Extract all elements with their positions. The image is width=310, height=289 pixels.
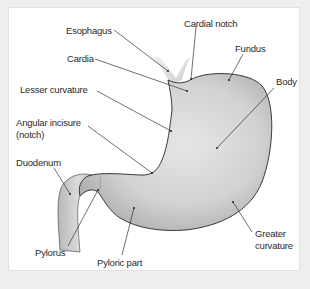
label-esophagus: Esophagus — [66, 25, 112, 37]
leader-esophagus — [114, 30, 168, 71]
label-duodenum: Duodenum — [16, 157, 61, 169]
label-greater-curvature: Greater curvature — [255, 228, 293, 252]
label-cardial-notch: Cardial notch — [184, 18, 237, 30]
leader-angular-incisure — [88, 126, 152, 173]
label-pyloric-part: Pyloric part — [97, 257, 142, 269]
label-pylorus: Pylorus — [35, 247, 65, 259]
esophagus-shape — [152, 56, 190, 84]
label-greater-curvature-line2: curvature — [255, 240, 293, 252]
label-cardia: Cardia — [67, 53, 94, 65]
label-angular-incisure-line1: Angular incisure — [16, 117, 81, 129]
label-angular-incisure-line2: (notch) — [16, 129, 81, 141]
label-body: Body — [276, 76, 297, 88]
leader-cardial-notch — [191, 27, 196, 79]
label-angular-incisure: Angular incisure (notch) — [16, 117, 81, 141]
leader-lesser-curvature — [97, 91, 171, 131]
label-fundus: Fundus — [235, 43, 266, 55]
label-lesser-curvature: Lesser curvature — [20, 84, 88, 96]
label-greater-curvature-line1: Greater — [255, 228, 293, 240]
